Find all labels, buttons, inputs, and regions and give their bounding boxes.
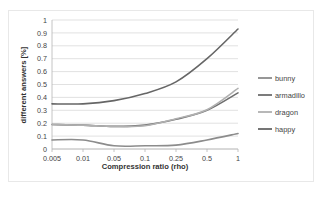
y-axis-tick-label: 0.8 [37,41,47,50]
line-chart: 00.10.20.30.40.50.60.70.80.91 0.0050.010… [0,0,332,199]
x-axis-tick-label: 0.01 [76,154,90,163]
y-axis-title: different answers [%] [19,46,28,123]
y-axis-tick-label: 0.7 [37,54,47,63]
y-axis-tick-label: 0.4 [37,93,47,102]
legend-label-dragon: dragon [275,108,298,117]
x-axis-ticks [52,149,238,152]
x-axis-tick-label: 0.005 [43,154,61,163]
legend-label-bunny: bunny [275,74,295,83]
y-axis-tick-label: 0.9 [37,29,47,38]
legend-label-happy: happy [275,125,295,134]
y-axis-tick-label: 0.2 [37,119,47,128]
chart-root: 00.10.20.30.40.50.60.70.80.91 0.0050.010… [0,0,332,199]
y-axis-tick-label: 1 [43,16,47,25]
x-axis-title: Compression ratio (rho) [102,162,189,171]
legend-label-armadillo: armadillo [275,91,305,100]
y-axis-tick-label: 0.3 [37,106,47,115]
chart-legend: bunnyarmadillodragonhappy [258,74,305,134]
y-axis-tick-label: 0 [43,145,47,154]
y-axis-tick-labels: 00.10.20.30.40.50.60.70.80.91 [37,16,47,154]
x-axis-tick-label: 1 [236,154,240,163]
x-axis-tick-label: 0.5 [202,154,212,163]
y-axis-tick-label: 0.6 [37,67,47,76]
y-axis-tick-label: 0.1 [37,132,47,141]
y-axis-tick-label: 0.5 [37,80,47,89]
